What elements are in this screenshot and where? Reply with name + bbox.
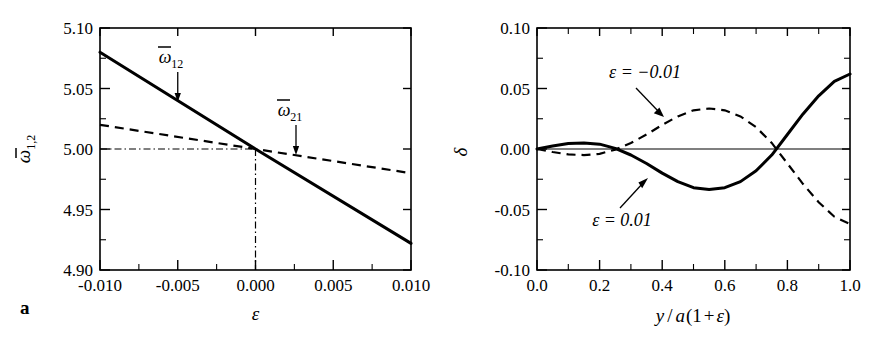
y-tick-label: 0.05 xyxy=(500,80,530,99)
y-tick-label: -0.10 xyxy=(495,261,530,280)
panel-a-y-axis-title: ω1,2 xyxy=(13,135,38,163)
x-tick-label: 0.010 xyxy=(392,276,430,295)
x-tick-label: 0.0 xyxy=(526,276,547,295)
x-tick-label: 0.8 xyxy=(777,276,798,295)
y-tick-label: 0.00 xyxy=(500,140,530,159)
x-axis-title-plus: + xyxy=(704,305,715,326)
annotation-eps-positive-label: ε = 0.01 xyxy=(592,210,652,230)
panel-b-y-tick-labels: -0.10 -0.05 0.00 0.05 0.10 xyxy=(495,19,530,280)
panel-a-y-axis-subscript: 1,2 xyxy=(24,135,38,150)
y-tick-label: 5.05 xyxy=(63,80,93,99)
x-axis-title-open: (1 xyxy=(686,305,702,327)
panel-a-x-axis-title: ε xyxy=(252,303,260,324)
x-axis-title-slash: / xyxy=(667,305,673,326)
x-tick-label: 0.4 xyxy=(652,276,674,295)
annotation-omega12-subscript: 12 xyxy=(171,57,183,71)
y-tick-label: 5.00 xyxy=(63,140,93,159)
y-tick-label: 0.10 xyxy=(500,19,530,38)
annotation-omega12-symbol: ω xyxy=(159,47,172,67)
panel-b-annotation-eps-positive: ε = 0.01 xyxy=(592,178,652,230)
panel-a-curve-omega12 xyxy=(100,52,411,243)
panel-b-plot: -0.10 -0.05 0.00 0.05 0.10 0.0 0.2 0.4 0… xyxy=(440,0,880,347)
panel-a-y-tick-labels: 4.90 4.95 5.00 5.05 5.10 xyxy=(63,19,93,280)
panel-b-annotation-eps-negative: ε = −0.01 xyxy=(609,62,681,117)
panel-a: a xyxy=(0,0,440,347)
annotation-eps-negative-label: ε = −0.01 xyxy=(609,62,681,82)
svg-text:ω12: ω12 xyxy=(159,47,184,71)
panel-a-annotation-omega12: ω12 xyxy=(158,47,183,102)
y-tick-label: 4.95 xyxy=(63,201,93,220)
panel-b-curve-eps-positive xyxy=(537,74,850,190)
panel-a-letter: a xyxy=(20,298,30,317)
panel-b-x-axis-title: y/a(1+ε) xyxy=(654,305,731,327)
x-tick-label: 0.005 xyxy=(314,276,352,295)
y-tick-label: 5.10 xyxy=(63,19,93,38)
panel-b-y-axis-title: δ xyxy=(450,146,471,156)
x-tick-label: -0.010 xyxy=(78,276,122,295)
x-tick-label: 0.000 xyxy=(236,276,274,295)
x-tick-label: 0.6 xyxy=(714,276,735,295)
panel-a-x-tick-labels: -0.010 -0.005 0.000 0.005 0.010 xyxy=(78,276,430,295)
x-tick-label: -0.005 xyxy=(156,276,200,295)
annotation-omega21-symbol: ω xyxy=(278,100,291,120)
x-axis-title-y: y xyxy=(654,305,665,326)
panel-b-x-tick-labels: 0.0 0.2 0.4 0.6 0.8 1.0 xyxy=(526,276,860,295)
x-tick-label: 0.2 xyxy=(589,276,610,295)
panel-b: b xyxy=(440,0,880,347)
figure-container: a xyxy=(0,0,880,347)
x-tick-label: 1.0 xyxy=(839,276,860,295)
annotation-omega21-subscript: 21 xyxy=(290,110,302,124)
panel-b-curve-eps-negative xyxy=(537,109,850,225)
y-tick-label: -0.05 xyxy=(495,201,530,220)
panel-a-annotation-omega21: ω21 xyxy=(277,100,302,155)
x-axis-title-close: ) xyxy=(724,305,730,327)
panel-a-plot: 4.90 4.95 5.00 5.05 5.10 -0.010 -0.005 0… xyxy=(0,0,440,347)
x-axis-title-a: a xyxy=(675,305,685,326)
annotation-omega21-arrowhead xyxy=(293,146,299,155)
svg-text:ω21: ω21 xyxy=(278,100,303,124)
